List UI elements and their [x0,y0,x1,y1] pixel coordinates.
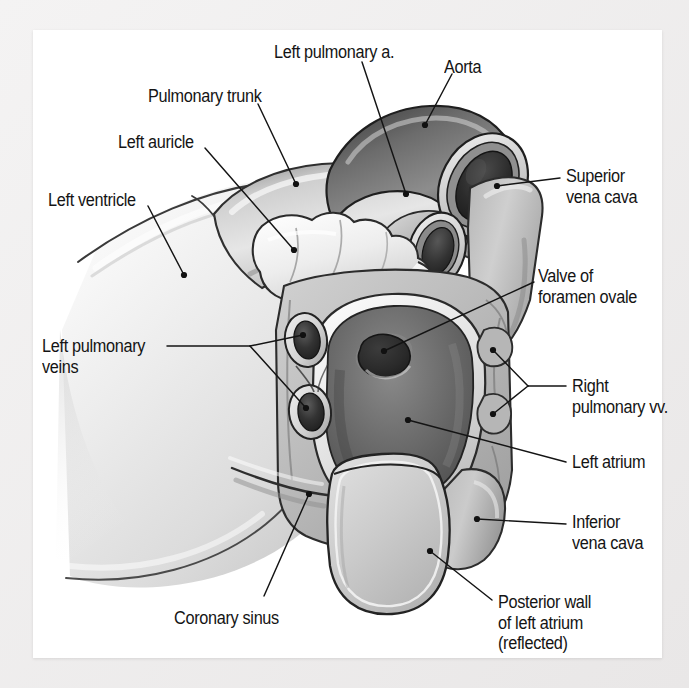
pw-line1: Posterior wall [498,592,591,612]
label-superior-vena-cava: Superiorvena cava [566,166,637,207]
label-left-auricle: Left auricle [118,132,194,153]
svc-line1: Superior [566,166,625,186]
label-right-pulmonary-vv: Rightpulmonary vv. [572,376,668,417]
label-valve-foramen-ovale: Valve offoramen ovale [538,266,637,307]
label-left-pulmonary-veins: Left pulmonaryveins [42,336,145,377]
vfo-line1: Valve of [538,266,593,286]
dot-posterior-wall [427,548,433,554]
label-left-pulmonary-a: Left pulmonary a. [274,42,394,63]
dot-coronary-sinus [306,491,312,497]
pw-line3: (reflected) [498,633,568,653]
lpv-line2: veins [42,357,78,377]
label-left-atrium: Left atrium [572,452,645,473]
rpv-line2: pulmonary vv. [572,397,668,417]
label-inferior-vena-cava: Inferiorvena cava [572,512,643,553]
svc-line2: vena cava [566,187,637,207]
label-coronary-sinus: Coronary sinus [174,608,279,629]
pw-line2: of left atrium [498,613,583,633]
dot-aorta [422,122,428,128]
dot-valve-foramen-ovale [381,348,387,354]
ivc-line2: vena cava [572,533,643,553]
rpv-line1: Right [572,376,608,396]
label-left-ventricle: Left ventricle [48,190,136,211]
dot-left-atrium [405,417,411,423]
label-aorta: Aorta [444,57,481,78]
label-pulmonary-trunk: Pulmonary trunk [148,86,262,107]
dot-rpv-lower [490,411,496,417]
figure-root: Left pulmonary a. Aorta Pulmonary trunk … [0,0,689,688]
dot-superior-vena-cava [494,183,500,189]
dot-lpv-lower [303,405,309,411]
label-posterior-wall: Posterior wallof left atrium(reflected) [498,592,591,654]
posterior-wall-flap [327,454,449,615]
lpv-line1: Left pulmonary [42,336,145,356]
dot-rpv-upper [490,347,496,353]
dot-left-pulmonary-a [403,191,409,197]
ivc-line1: Inferior [572,512,620,532]
vfo-line2: foramen ovale [538,287,637,307]
dot-left-ventricle [181,272,187,278]
dot-pulmonary-trunk [293,181,299,187]
dot-lpv-upper [300,332,306,338]
right-pulmonary-vein-upper [478,328,513,367]
dot-inferior-vena-cava [474,516,480,522]
dot-left-auricle [291,247,297,253]
